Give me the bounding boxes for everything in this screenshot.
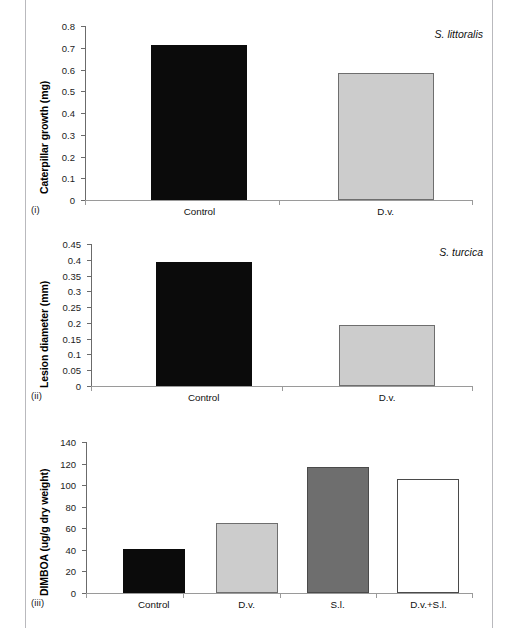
- y-axis-tick-label: 140: [60, 437, 76, 448]
- y-axis-tick: 0.3: [87, 291, 91, 292]
- x-axis-tick: [472, 201, 473, 205]
- y-axis-tick: 0.15: [87, 339, 91, 340]
- y-axis-tick-label: 0.35: [63, 270, 82, 281]
- y-axis-title-i: Caterpillar growth (mg): [38, 81, 50, 194]
- x-axis-label: D.v.: [379, 392, 396, 403]
- y-axis-line-i: [85, 26, 86, 201]
- y-axis-line-iii: [86, 442, 87, 594]
- y-axis-tick: 0.2: [81, 157, 85, 158]
- x-axis-tick: [472, 594, 473, 598]
- y-axis-tick: 80: [82, 507, 86, 508]
- y-axis-tick: 0.1: [87, 354, 91, 355]
- x-axis-label: Control: [138, 599, 170, 610]
- x-axis-label: S.l.: [330, 599, 344, 610]
- y-axis-tick: 0.7: [81, 48, 85, 49]
- plot-area-ii: 00.050.10.150.20.250.30.350.40.45Control…: [91, 244, 473, 387]
- chart-panel-ii: S. turcica Lesion diameter (mm) 00.050.1…: [0, 228, 509, 406]
- y-axis-tick-label: 0.1: [68, 349, 81, 360]
- y-axis-tick-label: 0.5: [62, 86, 75, 97]
- y-axis-tick: 0.4: [81, 113, 85, 114]
- figure-page: S. littoralis Caterpillar growth (mg) 00…: [0, 0, 509, 628]
- y-axis-tick-label: 0.45: [63, 239, 82, 250]
- x-axis-tick: [282, 387, 283, 391]
- y-axis-tick-label: 0.4: [68, 254, 81, 265]
- bar-d-v-s-l: [397, 479, 459, 593]
- y-axis-tick: 0.25: [87, 307, 91, 308]
- y-axis-tick: 0.35: [87, 276, 91, 277]
- x-axis-label: Control: [188, 392, 220, 403]
- y-axis-tick-label: 80: [65, 501, 76, 512]
- y-axis-tick-label: 0.1: [62, 173, 75, 184]
- y-axis-tick: 0.5: [81, 91, 85, 92]
- bar-control: [123, 549, 185, 593]
- plot-area-iii: 020406080100120140ControlD.v.S.l.D.v.+S.…: [86, 442, 473, 594]
- x-axis-tick: [279, 201, 280, 205]
- y-axis-tick: 60: [82, 528, 86, 529]
- bar-control: [156, 262, 252, 386]
- chart-panel-i: S. littoralis Caterpillar growth (mg) 00…: [0, 8, 509, 220]
- y-axis-tick-label: 0.05: [63, 365, 82, 376]
- plot-area-i: 00.10.20.30.40.50.60.70.8ControlD.v.: [85, 26, 473, 201]
- y-axis-tick-label: 0.8: [62, 21, 75, 32]
- y-axis-tick: 0.45: [87, 244, 91, 245]
- y-axis-tick-label: 0.4: [62, 108, 75, 119]
- y-axis-tick-label: 0.7: [62, 42, 75, 53]
- x-axis-label: D.v.: [377, 206, 394, 217]
- x-axis-label: D.v.: [238, 599, 255, 610]
- y-axis-tick: 0.2: [87, 323, 91, 324]
- x-axis-tick: [280, 594, 281, 598]
- y-axis-tick: 120: [82, 464, 86, 465]
- x-axis-label: Control: [184, 206, 216, 217]
- x-axis-tick: [183, 594, 184, 598]
- y-axis-tick-label: 0.25: [63, 302, 82, 313]
- y-axis-tick-label: 120: [60, 458, 76, 469]
- bar-d-v: [216, 523, 278, 593]
- bar-d-v: [339, 325, 435, 386]
- x-axis-tick: [376, 594, 377, 598]
- y-axis-line-ii: [91, 244, 92, 387]
- panel-label-i: (i): [31, 204, 40, 215]
- y-axis-tick-label: 20: [65, 566, 76, 577]
- y-axis-tick-label: 0.2: [62, 151, 75, 162]
- y-axis-tick-label: 0.15: [63, 333, 82, 344]
- y-axis-tick: 0.8: [81, 26, 85, 27]
- x-axis-tick: [472, 387, 473, 391]
- y-axis-tick-label: 0: [76, 381, 81, 392]
- bar-s-l: [307, 467, 369, 593]
- y-axis-tick-label: 0.3: [68, 286, 81, 297]
- y-axis-tick: 100: [82, 485, 86, 486]
- x-axis-tick-origin: [86, 594, 87, 598]
- y-axis-tick-label: 60: [65, 523, 76, 534]
- panel-label-iii: (iii): [31, 597, 44, 608]
- y-axis-tick: 40: [82, 550, 86, 551]
- x-axis-tick-origin: [85, 201, 86, 205]
- y-axis-tick-label: 0: [71, 588, 76, 599]
- x-axis-label: D.v.+S.l.: [410, 599, 447, 610]
- y-axis-title-ii: Lesion diameter (mm): [38, 281, 50, 388]
- chart-panel-iii: DIMBOA (ug/g dry weight) 020406080100120…: [0, 424, 509, 624]
- x-axis-tick-origin: [91, 387, 92, 391]
- y-axis-tick-label: 0.3: [62, 129, 75, 140]
- y-axis-tick-label: 0: [70, 195, 75, 206]
- y-axis-tick: 0.3: [81, 135, 85, 136]
- y-axis-tick: 0.05: [87, 370, 91, 371]
- y-axis-tick: 0.4: [87, 260, 91, 261]
- y-axis-tick-label: 0.6: [62, 64, 75, 75]
- bar-d-v: [338, 73, 434, 200]
- y-axis-tick: 0.1: [81, 178, 85, 179]
- panel-label-ii: (ii): [31, 390, 42, 401]
- y-axis-tick: 0.6: [81, 70, 85, 71]
- y-axis-tick-label: 40: [65, 544, 76, 555]
- bar-control: [151, 45, 247, 201]
- y-axis-tick: 20: [82, 571, 86, 572]
- y-axis-tick-label: 0.2: [68, 317, 81, 328]
- y-axis-tick-label: 100: [60, 480, 76, 491]
- y-axis-title-iii: DIMBOA (ug/g dry weight): [38, 469, 50, 596]
- y-axis-tick: 140: [82, 442, 86, 443]
